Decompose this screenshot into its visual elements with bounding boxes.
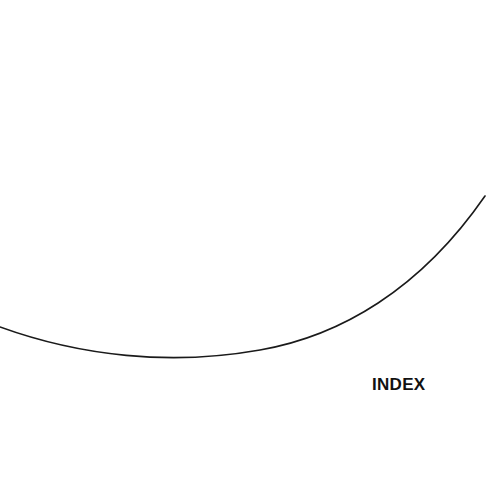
diagram-canvas (0, 0, 488, 481)
index-label: INDEX (372, 375, 425, 395)
arc-curve (0, 196, 485, 358)
